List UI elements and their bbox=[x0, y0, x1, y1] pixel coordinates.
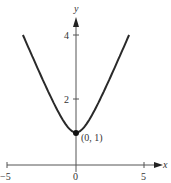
vertex-point bbox=[73, 130, 79, 136]
x-axis-label: x bbox=[162, 159, 168, 170]
y-axis-arrow-icon bbox=[73, 17, 79, 27]
y-tick-label-2: 2 bbox=[64, 94, 69, 105]
x-tick-label-0: 0 bbox=[73, 171, 78, 182]
x-axis-arrow-icon bbox=[154, 162, 163, 168]
point-label: (0, 1) bbox=[81, 132, 103, 144]
y-tick-label-4: 4 bbox=[64, 30, 69, 41]
x-tick-label-neg5: −5 bbox=[0, 171, 11, 182]
y-axis-label: y bbox=[73, 3, 79, 14]
x-tick-label-5: 5 bbox=[141, 171, 146, 182]
plot: y x −5 0 5 4 2 (0, 1) bbox=[0, 0, 171, 183]
